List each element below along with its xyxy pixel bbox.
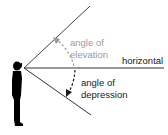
depression-label-2: depression xyxy=(81,89,127,100)
depression-arrow-icon xyxy=(66,89,72,97)
elevation-arrow-icon xyxy=(53,37,60,44)
person-silhouette-icon xyxy=(12,62,23,127)
depression-label-1: angle of xyxy=(81,77,115,88)
elevation-label-2: elevation xyxy=(70,49,108,60)
depression-arc xyxy=(69,70,75,92)
elevation-label-1: angle of xyxy=(70,37,104,48)
angle-diagram: angle of elevation horizontal angle of d… xyxy=(0,0,168,135)
horizontal-label: horizontal xyxy=(122,55,163,66)
